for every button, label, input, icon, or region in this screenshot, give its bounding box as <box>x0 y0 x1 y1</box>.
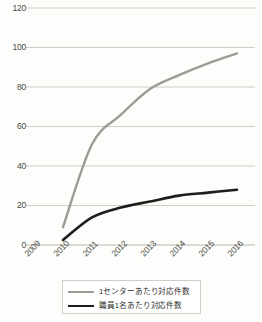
y-tick-label: 100 <box>2 43 26 52</box>
y-tick-label: 80 <box>2 83 26 92</box>
y-axis-tick-labels: 020406080100120 <box>0 0 26 252</box>
plot-svg <box>0 0 262 252</box>
y-tick-label: 120 <box>2 4 26 13</box>
line-chart: 020406080100120 200920102011201220132014… <box>0 0 262 322</box>
y-tick-label: 40 <box>2 162 26 171</box>
legend-item-label: 職員1名あたり対応件数 <box>99 301 182 310</box>
series-line <box>63 190 237 240</box>
y-tick-label: 20 <box>2 201 26 210</box>
x-axis-tick-labels: 20092010201120122013201420152016 <box>0 246 262 280</box>
y-tick-label: 60 <box>2 122 26 131</box>
series-lines <box>63 53 237 240</box>
legend-swatch-line-icon <box>68 291 94 293</box>
legend-item-label: 1センターあたり対応件数 <box>99 287 190 296</box>
gridlines <box>26 8 255 245</box>
legend-swatch-line-icon <box>68 305 94 307</box>
plot-area <box>0 0 262 252</box>
legend-item-1: 職員1名あたり対応件数 <box>68 299 195 312</box>
legend-item-0: 1センターあたり対応件数 <box>68 285 195 298</box>
chart-legend: 1センターあたり対応件数 職員1名あたり対応件数 <box>62 280 201 314</box>
